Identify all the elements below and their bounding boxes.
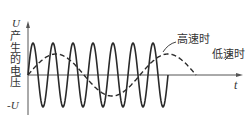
x-axis-label: t	[234, 79, 237, 91]
y-caption-char: 压	[8, 77, 22, 89]
y-caption-char: 的	[8, 54, 22, 66]
x-axis-arrow-icon	[236, 73, 243, 77]
low-speed-annotation: 低速时	[212, 49, 245, 60]
voltage-waveform-diagram: U 产 生 的 电 压 -U t 高速时 低速时	[0, 0, 252, 121]
y-axis-arrow-icon	[26, 21, 30, 28]
high-speed-leader-line	[163, 42, 176, 52]
y-axis-max-label: U	[12, 18, 20, 29]
y-axis-caption: 产 生 的 电 压	[8, 31, 22, 89]
y-axis-min-label: -U	[7, 100, 19, 111]
y-caption-char: 产	[8, 31, 22, 43]
high-speed-annotation: 高速时	[177, 34, 210, 45]
